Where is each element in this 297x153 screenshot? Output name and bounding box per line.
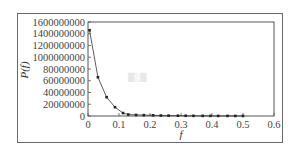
x-tick-label: 0.1 xyxy=(112,119,125,130)
data-point-marker xyxy=(177,114,180,117)
y-axis-title: P(f) xyxy=(18,61,31,79)
data-point-marker xyxy=(217,115,220,118)
data-point-marker xyxy=(105,96,108,99)
y-tick-label: 60000000 xyxy=(43,75,85,86)
x-tick-label: 0 xyxy=(85,119,90,130)
data-point-marker xyxy=(88,29,91,32)
data-point-marker xyxy=(114,106,117,109)
x-tick-label: 0.2 xyxy=(143,119,156,130)
data-point-marker xyxy=(234,115,237,118)
y-axis: 0200000004000000060000000800000001000000… xyxy=(33,17,92,122)
data-point-marker xyxy=(167,114,170,117)
data-point-marker xyxy=(152,114,155,117)
y-tick-label: 80000000 xyxy=(43,64,85,75)
data-point-marker xyxy=(226,115,229,118)
watermark-text: ▒░▒ xyxy=(128,72,147,82)
data-point-marker xyxy=(184,114,187,117)
line-chart: 0200000004000000060000000800000001000000… xyxy=(0,0,297,153)
y-tick-label: 1600000000 xyxy=(33,17,86,28)
y-tick-label: 20000000 xyxy=(43,99,85,110)
data-point-marker xyxy=(97,76,100,79)
y-tick-label: 1200000000 xyxy=(33,40,86,51)
data-point-marker xyxy=(135,114,138,117)
data-point-marker xyxy=(209,115,212,118)
y-tick-label: 40000000 xyxy=(43,87,85,98)
y-tick-label: 0 xyxy=(80,111,85,122)
plot-area xyxy=(88,22,274,116)
data-point-marker xyxy=(127,113,130,116)
series-markers xyxy=(88,29,244,117)
series-line xyxy=(90,30,244,116)
data-point-marker xyxy=(201,115,204,118)
x-tick-label: 0.4 xyxy=(205,119,219,130)
data-point-marker xyxy=(192,115,195,118)
data-point-marker xyxy=(160,114,163,117)
y-tick-label: 1000000000 xyxy=(33,52,86,63)
x-tick-label: 0.5 xyxy=(236,119,249,130)
data-point-marker xyxy=(122,112,125,115)
data-point-marker xyxy=(143,114,146,117)
x-tick-label: 0.6 xyxy=(267,119,280,130)
y-tick-label: 1400000000 xyxy=(33,28,86,39)
data-point-marker xyxy=(242,115,245,118)
